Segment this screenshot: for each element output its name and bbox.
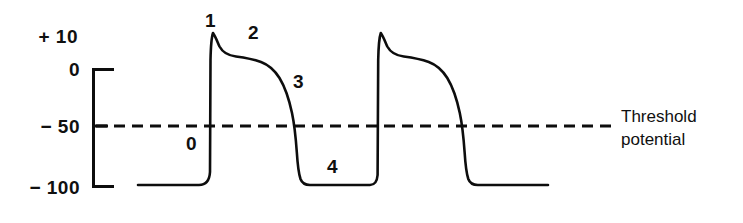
action-potential-chart: + 10 0 − 50 − 100 0 1 2 3 4 Threshold po… [0,0,743,223]
phase-label-0: 0 [186,133,197,154]
action-potential-figure: + 10 0 − 50 − 100 0 1 2 3 4 Threshold po… [0,0,743,223]
phase-label-2: 2 [248,22,259,43]
phase-label-4: 4 [327,156,338,177]
y-axis-group [92,68,114,188]
y-axis-label-minus-50: − 50 [40,116,80,137]
y-axis-label-minus-100: − 100 [29,177,80,198]
threshold-annotation-line-2: potential [621,130,685,149]
threshold-annotation-line-1: Threshold [621,107,697,126]
action-potential-trace [138,33,548,185]
y-axis-label-plus-10: + 10 [38,26,78,47]
phase-label-1: 1 [205,10,216,31]
phase-label-3: 3 [293,71,304,92]
y-axis-label-zero: 0 [69,59,80,80]
